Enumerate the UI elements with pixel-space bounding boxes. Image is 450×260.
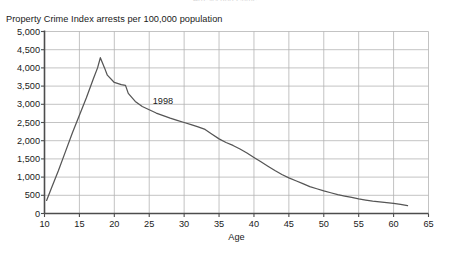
x-tick-label: 15 [74, 219, 84, 229]
x-tick-label: 50 [319, 219, 329, 229]
y-tick-label: 5,000 [17, 27, 40, 37]
y-tick-label: 500 [25, 190, 40, 200]
y-tick-label: 4,000 [17, 63, 40, 73]
y-tick-label: 3,500 [17, 81, 40, 91]
x-axis-title: Age [228, 232, 244, 242]
y-tick-label: 2,500 [17, 118, 40, 128]
series-annotation-1998: 1998 [153, 96, 173, 106]
cut-off-header: Arrests and Crime [0, 0, 450, 1]
y-tick-label: 0 [35, 209, 40, 219]
y-tick-label: 1,000 [17, 172, 40, 182]
x-tick-label: 55 [354, 219, 364, 229]
plot-area [0, 0, 450, 260]
x-tick-label: 25 [144, 219, 154, 229]
x-tick-label: 65 [423, 219, 433, 229]
y-tick-label: 1,500 [17, 154, 40, 164]
x-tick-label: 10 [39, 219, 49, 229]
x-tick-label: 30 [179, 219, 189, 229]
data-line-1998 [47, 58, 408, 206]
x-tick-label: 40 [249, 219, 259, 229]
y-tick-label: 4,500 [17, 45, 40, 55]
y-tick-label: 2,000 [17, 136, 40, 146]
y-tick-label: 3,000 [17, 99, 40, 109]
x-tick-label: 60 [388, 219, 398, 229]
chart-figure: Arrests and Crime Property Crime Index a… [0, 0, 450, 260]
y-axis-tick-labels: 05001,0001,5002,0002,5003,0003,5004,0004… [0, 0, 40, 260]
x-tick-label: 45 [284, 219, 294, 229]
x-tick-label: 35 [214, 219, 224, 229]
x-tick-label: 20 [109, 219, 119, 229]
